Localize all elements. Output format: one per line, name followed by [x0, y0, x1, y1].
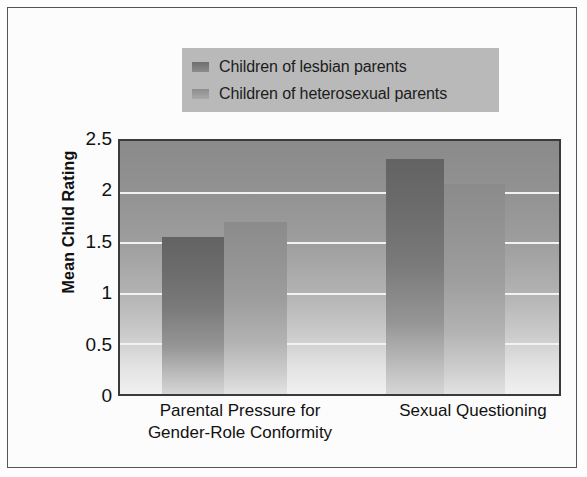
- y-axis-tick-labels: 2.5 2 1.5 1 0.5 0: [62, 139, 112, 396]
- y-tick-1-5: 1.5: [66, 230, 112, 252]
- plot-area: [118, 139, 561, 396]
- y-tick-2-5: 2.5: [66, 128, 112, 150]
- bar-parental-pressure-heterosexual: [224, 222, 287, 394]
- bar-sexual-questioning-lesbian: [386, 159, 445, 394]
- legend-item-lesbian-parents: Children of lesbian parents: [192, 53, 491, 80]
- x-axis-category-labels: Parental Pressure for Gender-Role Confor…: [118, 400, 561, 460]
- y-tick-0: 0: [66, 385, 112, 407]
- legend-label-heterosexual-parents: Children of heterosexual parents: [219, 85, 447, 103]
- figure-frame: Children of lesbian parents Children of …: [7, 7, 577, 468]
- bar-parental-pressure-lesbian: [162, 237, 225, 394]
- x-label-sexual-questioning: Sexual Questioning: [373, 400, 573, 422]
- legend-swatch-light-icon: [192, 89, 209, 99]
- chart-legend: Children of lesbian parents Children of …: [182, 48, 499, 112]
- y-tick-1: 1: [66, 282, 112, 304]
- legend-item-heterosexual-parents: Children of heterosexual parents: [192, 80, 491, 107]
- figure-canvas: Children of lesbian parents Children of …: [0, 0, 587, 477]
- legend-swatch-dark-icon: [192, 62, 209, 72]
- bar-sexual-questioning-heterosexual: [444, 184, 505, 394]
- legend-label-lesbian-parents: Children of lesbian parents: [219, 58, 407, 76]
- y-tick-0-5: 0.5: [66, 333, 112, 355]
- y-tick-2: 2: [66, 179, 112, 201]
- x-label-parental-pressure: Parental Pressure for Gender-Role Confor…: [110, 400, 370, 444]
